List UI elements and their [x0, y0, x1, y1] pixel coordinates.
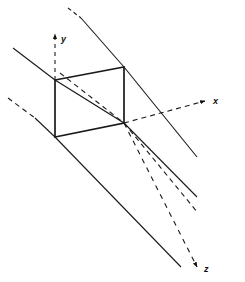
z-axis-label: z: [203, 264, 209, 274]
y-axis-label: y: [60, 34, 67, 44]
figure-background: [0, 0, 245, 282]
x-axis-label: x: [212, 96, 219, 106]
axis-diagram-svg: y x z: [0, 0, 245, 282]
figure-canvas: y x z: [0, 0, 245, 282]
